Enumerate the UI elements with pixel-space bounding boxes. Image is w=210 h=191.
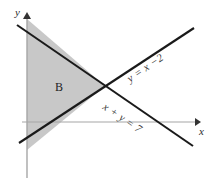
y-axis-label: y <box>15 7 20 18</box>
graph-figure: y x y = x −2 x + y = 7 B <box>0 0 210 191</box>
region-label-b: B <box>55 81 63 93</box>
y-axis-arrow-icon <box>23 12 31 19</box>
plot-canvas <box>0 0 210 191</box>
x-axis-label: x <box>199 126 204 137</box>
